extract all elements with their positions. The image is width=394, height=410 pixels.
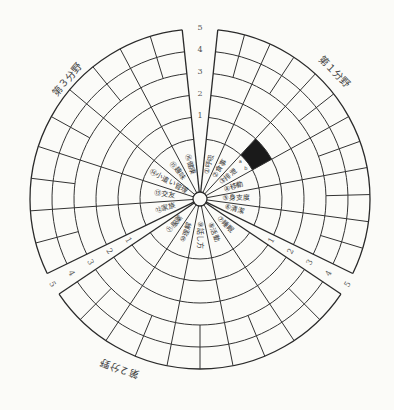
section-title-s1: 第１分野 (317, 53, 354, 90)
item-divider (70, 90, 195, 195)
sub-divider (270, 57, 294, 94)
scale-tick-left: 5 (47, 280, 57, 289)
section-title-s2: 第２分野 (99, 357, 141, 382)
scale-tick-top: 1 (197, 111, 202, 120)
section-3: ⑫家族⑬交友⑭小遣い管理⑮趣味⑯健康 (30, 30, 199, 274)
scale-tick-right: 5 (342, 280, 352, 289)
sub-divider (248, 315, 265, 356)
scale-tick-top: 3 (197, 67, 202, 76)
item-divider (206, 202, 353, 273)
sub-divider (289, 288, 320, 319)
sub-divider (319, 141, 360, 156)
sub-label: b (244, 165, 247, 171)
sub-divider (135, 315, 152, 356)
scale-tick-left: 3 (85, 258, 95, 267)
level-ring (96, 269, 305, 325)
scale-tick-left: 2 (104, 247, 114, 256)
scale-tick-right: 4 (323, 269, 333, 278)
item-divider (59, 203, 194, 294)
sub-label: a (239, 158, 242, 164)
scale-tick-top: 5 (197, 23, 202, 32)
scale-tick-right: 1 (266, 236, 276, 245)
scale-tick-right: 3 (304, 258, 314, 267)
item-label: ⑤身支度 (222, 193, 250, 203)
scale-tick-top: 4 (197, 45, 202, 54)
sub-divider (326, 195, 370, 196)
level-ring (218, 30, 370, 274)
sub-divider (51, 117, 89, 138)
item-divider (204, 205, 294, 341)
section-1: ①呼吸②食事③排泄④移動⑤身支度⑥清潔 (201, 30, 370, 274)
sub-divider (233, 35, 245, 77)
scale-tick-left: 4 (66, 269, 76, 278)
level-ring (132, 245, 268, 281)
item-divider (206, 203, 341, 294)
item-label: ⑨話し方 (196, 221, 205, 248)
scale-tick-left: 1 (123, 236, 133, 245)
sub-divider (299, 94, 334, 121)
section-2: ⑦睡眠⑧活動⑨話し方⑩理解⑪服薬 (59, 203, 341, 369)
item-divider (38, 146, 193, 196)
scale-tick-right: 2 (285, 247, 295, 256)
sub-divider (93, 67, 121, 101)
item-divider (47, 202, 194, 273)
level-ring (215, 52, 348, 264)
item-divider (106, 205, 196, 341)
scale-tick-top: 2 (197, 89, 202, 98)
sub-divider (321, 235, 363, 248)
sub-divider (150, 36, 163, 78)
level-ring (114, 257, 286, 303)
sub-divider (36, 232, 79, 243)
center-hub (193, 192, 207, 206)
sub-divider (80, 288, 111, 319)
radial-assessment-chart: ①呼吸②食事③排泄④移動⑤身支度⑥清潔⑦睡眠⑧活動⑨話し方⑩理解⑪服薬⑫家族⑬交… (0, 0, 394, 410)
